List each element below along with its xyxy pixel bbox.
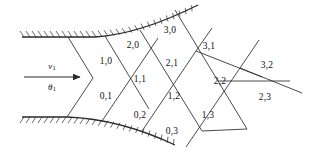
cell-label: 2,2 bbox=[214, 77, 226, 87]
nu-subscript: 1 bbox=[52, 64, 56, 71]
cell-label: 1,2 bbox=[168, 92, 180, 102]
cell-label: 0,1 bbox=[100, 92, 112, 102]
cell-label: 2,3 bbox=[259, 93, 271, 103]
cell-label: 1,3 bbox=[202, 111, 214, 121]
cell-label: 3,2 bbox=[261, 61, 273, 71]
cell-label: 0,2 bbox=[134, 111, 146, 121]
cell-label: 1,0 bbox=[100, 57, 112, 67]
lower-wall bbox=[20, 117, 175, 145]
cell-label: 0,3 bbox=[166, 127, 178, 137]
flow-nu-label: ν1 bbox=[48, 62, 56, 72]
flow-theta-label: θ1 bbox=[48, 83, 56, 93]
cell-label: 3,0 bbox=[164, 26, 176, 36]
left-running-characteristics bbox=[67, 28, 259, 147]
theta-subscript: 1 bbox=[52, 85, 56, 92]
characteristics-grid-figure: ν1 θ1 1,0 2,0 3,0 1,1 2,1 3,1 0,1 0,2 1,… bbox=[0, 0, 310, 158]
cell-label: 1,1 bbox=[134, 75, 146, 85]
right-running-characteristics bbox=[68, 10, 247, 131]
cell-label: 2,0 bbox=[127, 41, 139, 51]
cell-label: 3,1 bbox=[203, 42, 215, 52]
lower-wall-hatching bbox=[20, 117, 174, 145]
cell-label: 2,1 bbox=[166, 59, 178, 69]
characteristics-net-drawing bbox=[0, 0, 310, 158]
